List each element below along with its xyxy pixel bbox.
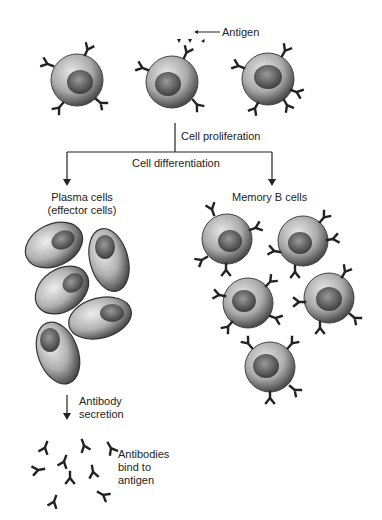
antibodies-bind-label: Antibodies bind to antigen	[118, 448, 169, 487]
memory-b-cells	[195, 203, 361, 403]
plasma-cells	[18, 213, 136, 390]
cell-proliferation-label: Cell proliferation	[181, 130, 260, 143]
antigen-label: Antigen	[222, 26, 259, 39]
plasma-cells-label: Plasma cells (effector cells)	[32, 191, 132, 217]
b-cell-activation-diagram	[0, 0, 382, 520]
cell-differentiation-label: Cell differentiation	[132, 157, 220, 170]
antigen-particles	[177, 30, 220, 43]
b-cell-1	[41, 43, 107, 114]
secreted-antibodies	[32, 439, 116, 508]
b-cell-2	[136, 46, 203, 111]
antibody-secretion-label: Antibody secretion	[79, 395, 124, 421]
b-cell-3	[232, 44, 302, 114]
memory-b-cells-label: Memory B cells	[232, 191, 307, 204]
